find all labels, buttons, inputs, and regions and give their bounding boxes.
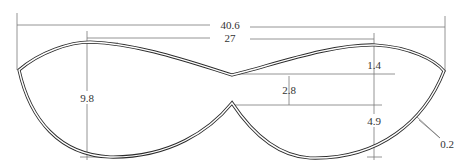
dim-label-notch-depth: 4.9 [367,115,381,127]
drawing-svg: 40.6 27 1.4 2.8 9.8 4.9 [0,0,464,167]
dimension-dip-depth: 1.4 [232,59,395,74]
thickness-leader-lower [419,120,440,138]
dimension-peak-to-peak: 27 [87,32,374,44]
dim-label-dip-depth: 1.4 [367,59,381,71]
dimension-cup-height: 9.8 [76,91,98,104]
dimension-center-gap: 2.8 [282,76,296,105]
technical-drawing: 40.6 27 1.4 2.8 9.8 4.9 [0,0,464,167]
dim-label-overall-width: 40.6 [220,19,240,31]
dim-label-center-gap: 2.8 [282,84,296,96]
dim-label-peak-to-peak: 27 [225,32,237,44]
dimension-overall-width: 40.6 [17,19,445,31]
dim-label-wall-thickness: 0.2 [440,138,454,150]
dimension-wall-thickness: 0.2 [417,117,454,150]
dimension-notch-depth: 4.9 [363,114,385,127]
dim-label-cup-height: 9.8 [80,92,94,104]
